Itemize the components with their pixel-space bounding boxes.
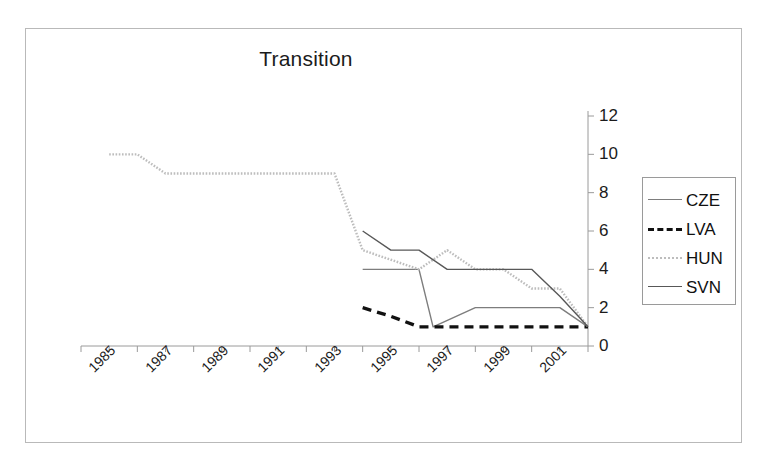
legend-item-label: CZE: [686, 192, 720, 209]
legend-item-label: HUN: [686, 250, 723, 267]
y-axis-tick-label: 0: [599, 336, 627, 356]
legend-item-svn[interactable]: SVN: [643, 271, 737, 303]
legend-item-label: SVN: [686, 279, 721, 296]
y-axis-tick-label: 6: [599, 221, 627, 241]
y-axis-tick-label: 4: [599, 259, 627, 279]
chart-frame: Transition 024681012 1985198719891991199…: [25, 28, 742, 443]
y-axis-tick-label: 2: [599, 298, 627, 318]
series-line-hun: [109, 154, 588, 326]
y-axis-tick-label: 8: [599, 183, 627, 203]
chart-legend: CZELVAHUNSVN: [642, 177, 736, 305]
legend-item-cze[interactable]: CZE: [643, 184, 737, 216]
y-axis-tick-label: 10: [599, 144, 627, 164]
series-line-svn: [363, 231, 588, 327]
legend-item-hun[interactable]: HUN: [643, 242, 737, 274]
plot-svg: [26, 29, 743, 444]
line-solid-gray-swatch: [648, 194, 682, 206]
legend-item-lva[interactable]: LVA: [643, 213, 737, 245]
legend-item-label: LVA: [686, 221, 716, 238]
line-solid-darkgray-swatch: [648, 281, 682, 293]
plot-area: [26, 29, 743, 444]
series-line-lva: [363, 308, 588, 327]
line-dashed-black-swatch: [648, 223, 682, 235]
y-axis-tick-label: 12: [599, 106, 627, 126]
line-dotted-lightgray-swatch: [648, 252, 682, 264]
